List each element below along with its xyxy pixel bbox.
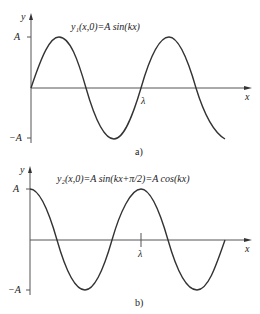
panel-a-lambda-label: λ <box>141 96 145 106</box>
panel-b-equation: y₂(x,0)=A sin(kx+π/2)=A cos(kx) <box>57 174 189 184</box>
panel-b-x-label: x <box>245 244 249 254</box>
wave-diagram <box>0 0 260 314</box>
panel-b-lambda-label: λ <box>138 249 142 259</box>
panel-b-tick-A: A <box>13 184 19 194</box>
panel-a-axes <box>27 13 252 143</box>
panel-b-y-label: y <box>20 165 24 175</box>
panel-b-tick-negA: −A <box>8 285 21 295</box>
panel-a-x-arrow-icon <box>244 86 252 90</box>
panel-a-y-label: y <box>21 12 25 22</box>
panel-a-tick-A: A <box>14 32 20 42</box>
panel-a-equation: y₁(x,0)=A sin(kx) <box>71 22 140 32</box>
panel-b-axes <box>26 166 252 295</box>
panel-b-y-arrow-icon <box>28 166 32 173</box>
panel-b-caption: b) <box>135 298 143 308</box>
panel-a-y-arrow-icon <box>29 13 33 20</box>
panel-b-x-arrow-icon <box>244 238 252 242</box>
panel-a-tick-negA: −A <box>9 133 22 143</box>
panel-a-caption: a) <box>135 147 143 157</box>
panel-a-x-label: x <box>245 92 249 102</box>
